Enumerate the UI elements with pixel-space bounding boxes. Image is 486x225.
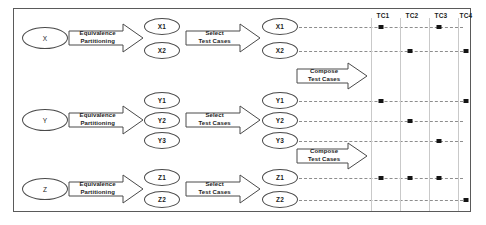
connector-line-z2 <box>299 200 463 201</box>
selected-ellipse-z2: Z2 <box>262 191 298 208</box>
partition-ellipse-x2: X2 <box>144 42 180 59</box>
select-test-cases-arrow-z: Select Test Cases <box>185 174 261 204</box>
matrix-dot-z1-tc3 <box>437 176 442 180</box>
select-test-cases-arrow-x: Select Test Cases <box>185 23 261 53</box>
equivalence-partitioning-arrow-x: Equivalence Partitioning <box>68 23 144 53</box>
selected-ellipse-y3: Y3 <box>262 132 298 149</box>
matrix-dot-x2-tc2 <box>408 49 413 53</box>
matrix-dot-z1-tc2 <box>408 176 413 180</box>
partition-ellipse-z1: Z1 <box>144 169 180 186</box>
compose-test-cases-arrow-lower: Compose Test Cases <box>296 142 368 170</box>
equivalence-partitioning-arrow-z: Equivalence Partitioning <box>68 174 144 204</box>
selected-ellipse-y1: Y1 <box>262 92 298 109</box>
matrix-dot-z1-tc1 <box>379 176 384 180</box>
input-label-z: Z <box>43 186 47 193</box>
matrix-dot-x1-tc1 <box>379 25 384 29</box>
matrix-dot-x1-tc3 <box>437 25 442 29</box>
selected-ellipse-y2: Y2 <box>262 112 298 129</box>
matrix-dot-y1-tc4 <box>464 99 469 103</box>
selected-ellipse-z1: Z1 <box>262 169 298 186</box>
input-ellipse-y: Y <box>22 109 68 131</box>
connector-line-x2 <box>299 51 463 52</box>
tc-header-3: TC3 <box>435 12 448 19</box>
matrix-dot-x2-tc4 <box>464 49 469 53</box>
tc-grid-line-1 <box>371 18 372 211</box>
select-test-cases-arrow-y: Select Test Cases <box>185 105 261 135</box>
tc-header-2: TC2 <box>406 12 419 19</box>
matrix-dot-z2-tc4 <box>464 198 469 202</box>
tc-header-1: TC1 <box>377 12 390 19</box>
tc-grid-line-4 <box>458 18 459 211</box>
partition-ellipse-x1: X1 <box>144 18 180 35</box>
input-label-y: Y <box>43 117 48 124</box>
tc-grid-line-2 <box>400 18 401 211</box>
partition-ellipse-y3: Y3 <box>144 132 180 149</box>
partition-ellipse-y2: Y2 <box>144 112 180 129</box>
equivalence-partitioning-arrow-y: Equivalence Partitioning <box>68 105 144 135</box>
selected-ellipse-x2: X2 <box>262 42 298 59</box>
compose-test-cases-arrow-upper: Compose Test Cases <box>296 62 368 90</box>
matrix-dot-y1-tc1 <box>379 99 384 103</box>
matrix-dot-y3-tc3 <box>437 139 442 143</box>
partition-ellipse-z2: Z2 <box>144 191 180 208</box>
selected-ellipse-x1: X1 <box>262 18 298 35</box>
input-ellipse-z: Z <box>22 178 68 200</box>
input-ellipse-x: X <box>22 27 68 49</box>
partition-ellipse-y1: Y1 <box>144 92 180 109</box>
diagram-canvas: X Equivalence Partitioning X1 X2 Select … <box>0 0 486 225</box>
input-label-x: X <box>43 35 48 42</box>
connector-line-y2 <box>299 121 463 122</box>
matrix-dot-y2-tc2 <box>408 119 413 123</box>
tc-header-4: TC4 <box>460 12 473 19</box>
tc-grid-line-3 <box>429 18 430 211</box>
